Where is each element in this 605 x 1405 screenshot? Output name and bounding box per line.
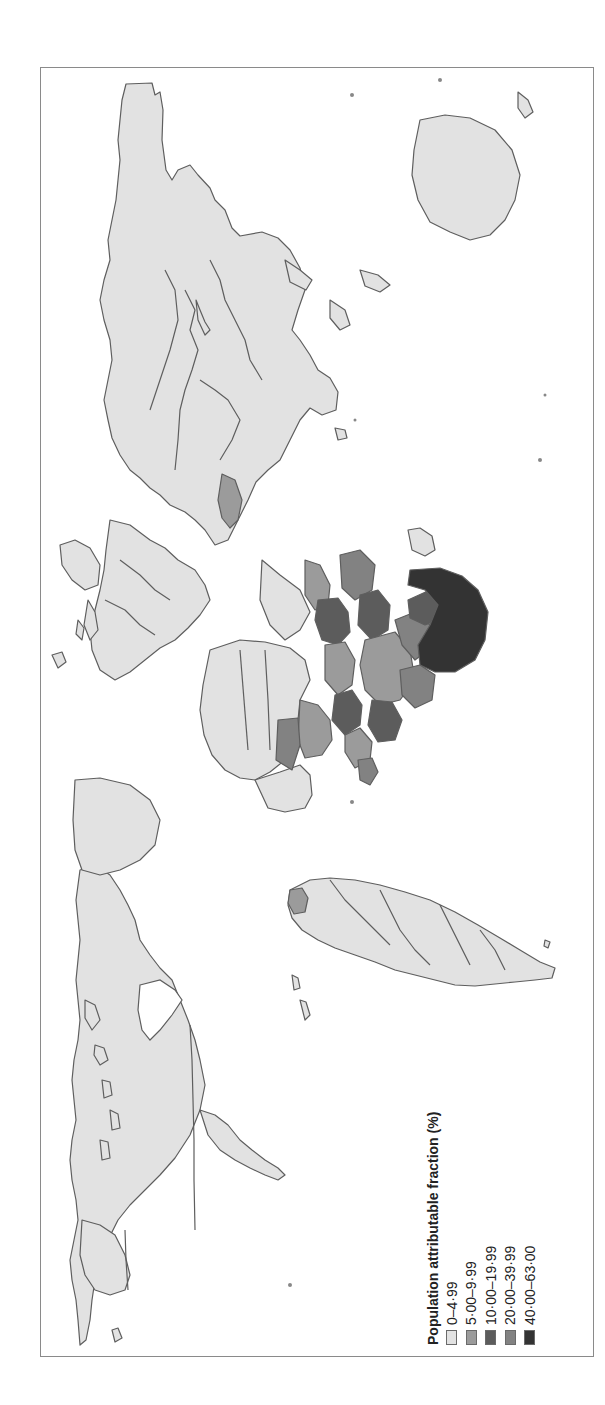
legend-label-2: 10·00–19·99	[483, 1246, 499, 1325]
legend-item-0: 0–4·99	[442, 1045, 462, 1345]
legend-label-4: 40·00–63·00	[522, 1246, 538, 1325]
map-legend: Population attributable fraction (%) 0–4…	[424, 1045, 540, 1345]
legend-swatch-3	[505, 1330, 516, 1345]
legend-title: Population attributable fraction (%)	[424, 1045, 442, 1345]
legend-swatch-0	[446, 1330, 457, 1345]
south-america-continent	[288, 878, 555, 986]
legend-item-1: 5·00–9·99	[462, 1045, 482, 1345]
legend-swatch-2	[485, 1330, 496, 1345]
north-america-continent	[70, 778, 310, 1345]
africa-continent	[200, 528, 488, 812]
legend-label-0: 0–4·99	[444, 1281, 460, 1325]
legend-swatch-1	[466, 1330, 477, 1345]
legend-label-3: 20·00–39·99	[502, 1246, 518, 1325]
legend-item-4: 40·00–63·00	[520, 1045, 540, 1345]
europe-continent	[52, 520, 210, 680]
legend-swatch-4	[524, 1330, 535, 1345]
legend-item-2: 10·00–19·99	[481, 1045, 501, 1345]
legend-item-3: 20·00–39·99	[501, 1045, 521, 1345]
legend-label-1: 5·00–9·99	[463, 1261, 479, 1325]
